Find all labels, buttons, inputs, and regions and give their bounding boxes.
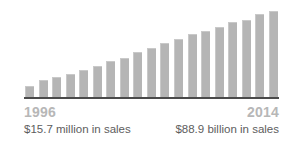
bar bbox=[93, 66, 102, 98]
chart-plot-area bbox=[25, 8, 278, 98]
bar bbox=[120, 58, 129, 99]
end-year-label: 2014 bbox=[147, 104, 279, 121]
bar bbox=[160, 43, 169, 98]
bar bbox=[52, 77, 61, 98]
bar-series bbox=[25, 8, 278, 98]
bar bbox=[269, 11, 278, 98]
caption-start: 1996 $15.7 million in sales bbox=[24, 104, 156, 137]
bar bbox=[106, 61, 115, 98]
bar bbox=[201, 31, 210, 98]
bar bbox=[188, 34, 197, 98]
bar bbox=[39, 80, 48, 98]
bar bbox=[147, 48, 156, 98]
bar bbox=[79, 70, 88, 98]
bar bbox=[133, 52, 142, 98]
bar bbox=[215, 27, 224, 98]
bar bbox=[174, 39, 183, 98]
start-sales-label: $15.7 million in sales bbox=[24, 122, 156, 137]
start-year-label: 1996 bbox=[24, 104, 156, 121]
end-sales-label: $88.9 billion in sales bbox=[147, 122, 279, 137]
chart-baseline-axis bbox=[24, 97, 279, 99]
bar bbox=[242, 20, 251, 98]
chart-captions: 1996 $15.7 million in sales 2014 $88.9 b… bbox=[0, 104, 293, 148]
bar bbox=[66, 74, 75, 98]
bar bbox=[255, 14, 264, 98]
sales-growth-chart: 1996 $15.7 million in sales 2014 $88.9 b… bbox=[0, 0, 293, 152]
bar bbox=[228, 22, 237, 98]
caption-end: 2014 $88.9 billion in sales bbox=[147, 104, 279, 137]
